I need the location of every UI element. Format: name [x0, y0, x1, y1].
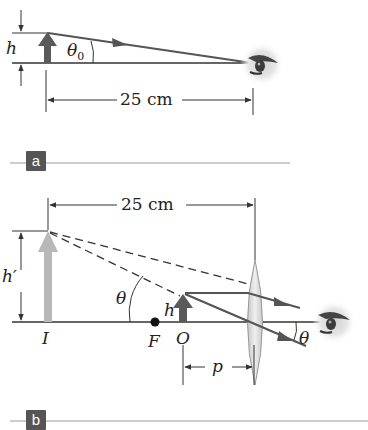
focal-point-label: F — [148, 333, 160, 350]
image-height-label: h′ — [2, 268, 17, 285]
object-label: O — [176, 330, 190, 347]
object-distance-label: p — [212, 358, 223, 375]
angle-symbol: θ — [67, 40, 77, 60]
distance-label-b: 25 cm — [118, 196, 177, 213]
panel-tag-b: b — [26, 410, 46, 430]
panel-tag-a: a — [26, 151, 46, 171]
angle-label-a: θ0 — [67, 42, 84, 62]
distance-label-a: 25 cm — [117, 91, 176, 108]
panel-b — [10, 198, 368, 421]
object-arrow-icon — [38, 32, 57, 63]
image-label: I — [42, 330, 49, 347]
angle-subscript: 0 — [77, 50, 84, 63]
object-height-label: h — [164, 302, 175, 319]
height-label-a: h — [6, 40, 17, 57]
panel-a — [10, 10, 290, 163]
angle-label-b: θ — [116, 290, 126, 307]
eye-icon-a — [240, 42, 284, 86]
object-arrow-icon-b — [173, 294, 193, 322]
image-arrow-icon — [38, 231, 58, 322]
eye-angle-label: θ — [299, 330, 309, 347]
eye-icon-b — [312, 300, 356, 344]
